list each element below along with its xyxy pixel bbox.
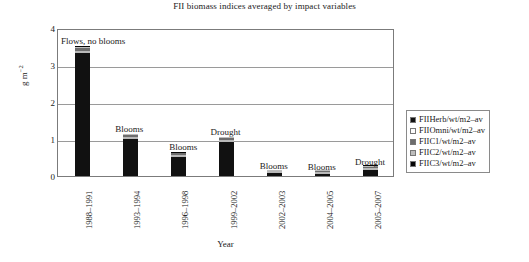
y-axis-tick-label: 2: [40, 99, 55, 108]
x-axis-tick-label: 1988–1991: [85, 191, 94, 229]
bar-stack[interactable]: [219, 137, 234, 176]
x-axis-tick-label: 2002–2003: [278, 191, 287, 229]
gridline: [58, 67, 393, 68]
bar-segment: [267, 173, 282, 176]
bar-stack[interactable]: [171, 152, 186, 176]
bar-segment: [75, 53, 90, 176]
x-axis-tick-label: 1993–1994: [133, 191, 142, 229]
bar-segment: [219, 142, 234, 176]
bar-annotation: Blooms: [308, 163, 336, 172]
y-axis: 01234: [40, 22, 55, 184]
bar-annotation: Blooms: [115, 125, 143, 134]
legend-label: FIIHerb/wt/m2–av: [419, 115, 483, 124]
legend-item[interactable]: FIIHerb/wt/m2–av: [410, 114, 485, 125]
y-axis-tick-label: 0: [40, 173, 55, 182]
legend-label: FIIOmni/wt/m2–av: [419, 126, 485, 135]
legend-swatch-icon: [410, 128, 416, 134]
legend-item[interactable]: FIIC3/wt/m2–av: [410, 158, 485, 169]
x-axis-tick-label: 1999–2002: [230, 191, 239, 229]
x-axis-tick-label: 2005–2007: [374, 191, 383, 229]
bar-annotation: Flows, no blooms: [61, 37, 125, 46]
bar-segment: [363, 170, 378, 176]
y-axis-tick-label: 1: [40, 136, 55, 145]
bar-stack[interactable]: [75, 46, 90, 176]
bar-annotation: Drought: [211, 128, 241, 137]
gridline: [58, 104, 393, 105]
legend-label: FIIC3/wt/m2–av: [419, 159, 476, 168]
chart-legend: FIIHerb/wt/m2–avFIIOmni/wt/m2–avFIIC1/wt…: [406, 110, 490, 173]
legend-swatch-icon: [410, 161, 416, 167]
legend-item[interactable]: FIIC2/wt/m2–av: [410, 147, 485, 158]
legend-label: FIIC1/wt/m2–av: [419, 137, 476, 146]
x-axis-title: Year: [57, 239, 394, 249]
bar-stack[interactable]: [123, 134, 138, 176]
bar-stack[interactable]: [363, 165, 378, 176]
bar-annotation: Blooms: [169, 143, 197, 152]
bar-segment: [171, 157, 186, 176]
x-axis-tick-labels: 1988–19911993–19941996–19981999–20022002…: [57, 179, 394, 235]
legend-item[interactable]: FIIOmni/wt/m2–av: [410, 125, 485, 136]
y-axis-tick-label: 4: [40, 25, 55, 34]
y-axis-tick-label: 3: [40, 62, 55, 71]
legend-label: FIIC2/wt/m2–av: [419, 148, 476, 157]
legend-swatch-icon: [410, 150, 416, 156]
legend-item[interactable]: FIIC1/wt/m2–av: [410, 136, 485, 147]
x-axis-tick-label: 1996–1998: [181, 191, 190, 229]
plot-area: [57, 29, 394, 177]
chart-figure: FII biomass indices averaged by impact v…: [0, 0, 529, 262]
legend-swatch-icon: [410, 117, 416, 123]
y-axis-title: g m−2: [17, 65, 29, 86]
bar-annotation: Drought: [355, 158, 385, 167]
bar-annotation: Blooms: [260, 162, 288, 171]
chart-title: FII biomass indices averaged by impact v…: [0, 1, 529, 11]
x-axis-tick-label: 2004–2005: [326, 191, 335, 229]
legend-swatch-icon: [410, 139, 416, 145]
bar-segment: [315, 174, 330, 176]
bar-segment: [123, 139, 138, 176]
